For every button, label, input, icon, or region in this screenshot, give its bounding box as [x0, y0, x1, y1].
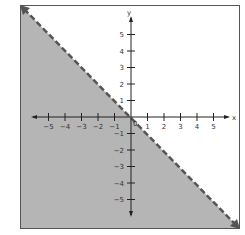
x-tick-label: 3 — [178, 123, 182, 131]
x-axis-label: x — [232, 114, 236, 122]
y-tick-label: 3 — [120, 64, 124, 72]
inequality-graph: −5−4−3−2−11234554321−1−2−3−4−5 x y 0 — [0, 0, 245, 235]
y-tick-label: 4 — [120, 48, 125, 56]
y-tick-label: 2 — [120, 81, 124, 89]
y-tick-label: −1 — [114, 130, 124, 138]
x-tick-label: −5 — [43, 123, 53, 131]
y-tick-label: 1 — [120, 97, 124, 105]
origin-label: 0 — [133, 120, 137, 128]
x-tick-label: 4 — [195, 123, 200, 131]
x-tick-label: −4 — [60, 123, 71, 131]
y-tick-label: −2 — [114, 147, 124, 155]
y-tick-label: −4 — [114, 180, 125, 188]
x-axis-arrow-right — [224, 115, 230, 119]
x-tick-label: 2 — [162, 123, 166, 131]
x-tick-label: −3 — [76, 123, 86, 131]
x-tick-label: 5 — [211, 123, 215, 131]
x-tick-label: −2 — [93, 123, 103, 131]
y-tick-label: −3 — [114, 163, 124, 171]
y-axis-label: y — [127, 9, 131, 17]
y-tick-label: 5 — [120, 31, 124, 39]
y-tick-label: −5 — [114, 196, 124, 204]
x-tick-label: 1 — [145, 123, 149, 131]
